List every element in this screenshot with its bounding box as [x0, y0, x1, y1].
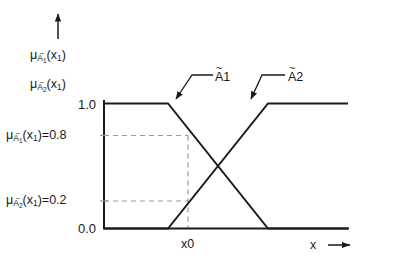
curve-a2-membership [104, 104, 348, 229]
tilde-accent: ~ [16, 130, 21, 138]
leader-line-a2 [251, 75, 285, 99]
curve-label-a1: ~A1 [215, 70, 230, 84]
x-axis-label: x [310, 238, 316, 252]
mu-glyph: μ [6, 128, 13, 142]
curve-label-a2: ~A2 [288, 70, 303, 84]
set-a1-glyph: ~A1 [37, 54, 46, 64]
tilde-accent: ~ [216, 63, 223, 75]
curve-a1-membership [104, 104, 348, 229]
set-a2-glyph: ~A2 [13, 199, 22, 209]
y-axis-label-mu-a1: μ~A1(x1) [30, 49, 66, 65]
figure-container: μ~A1(x1) μ~A2(x1) 1.0 0.0 μ~A1(x1)=0.8 μ… [0, 0, 400, 270]
tilde-accent: ~ [40, 79, 45, 87]
tilde-accent: ~ [40, 50, 45, 58]
set-a2-glyph: ~A2 [37, 83, 46, 93]
mu-a1-value: 0.8 [49, 128, 66, 142]
mu-a1-value-label: μ~A1(x1)=0.8 [6, 129, 67, 145]
set-a1-glyph: ~A1 [13, 134, 22, 144]
y-tick-label-0.0: 0.0 [48, 221, 96, 236]
y-tick-label-1.0: 1.0 [48, 97, 96, 112]
x0-marker-label: x0 [181, 237, 194, 251]
mu-glyph: μ [6, 193, 13, 207]
tilde-accent: ~ [289, 63, 296, 75]
y-axis-label-mu-a2: μ~A2(x1) [30, 78, 66, 94]
mu-glyph: μ [30, 48, 37, 62]
leader-line-a1 [176, 75, 213, 99]
mu-a2-value: 0.2 [49, 193, 66, 207]
mu-glyph: μ [30, 77, 37, 91]
mu-a2-value-label: μ~A2(x1)=0.2 [6, 194, 67, 210]
tilde-accent: ~ [16, 195, 21, 203]
